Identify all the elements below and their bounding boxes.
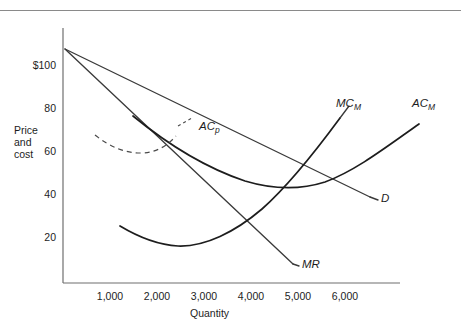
ac-p-label-main: AC (199, 120, 215, 132)
y-axis-title-line3: cost (14, 148, 33, 161)
economics-cost-curves-figure: $100 80 60 40 20 Price and cost 1,000 2,… (0, 0, 461, 331)
ac-p-leader-line (178, 118, 192, 126)
mc-m-curve-label: MCM (336, 97, 361, 112)
average-cost-competitive-curve (95, 135, 176, 153)
ac-p-curve-label: ACp (199, 120, 220, 135)
x-tick-label-2000: 2,000 (134, 290, 180, 302)
y-axis-title-line1: Price (14, 124, 38, 137)
y-axis-title-line2: and (14, 136, 32, 149)
mc-m-label-main: MC (336, 97, 354, 109)
x-tick-label-6000: 6,000 (322, 290, 368, 302)
x-tick-label-3000: 3,000 (181, 290, 227, 302)
ac-m-label-sub: M (428, 102, 435, 112)
x-tick-label-1000: 1,000 (87, 290, 133, 302)
marginal-cost-monopolist-curve (120, 118, 340, 246)
plot-area (0, 0, 461, 331)
d-curve-label: D (381, 192, 389, 204)
mr-curve-label: MR (302, 258, 320, 270)
x-axis-title: Quantity (190, 307, 229, 320)
ac-m-curve-label: ACM (412, 97, 435, 112)
mc-m-label-sub: M (354, 102, 361, 112)
ac-p-label-sub: p (215, 125, 220, 135)
ac-m-label-main: AC (412, 97, 428, 109)
x-tick-label-5000: 5,000 (275, 290, 321, 302)
y-tick-label-20: 20 (14, 231, 56, 243)
x-tick-label-4000: 4,000 (228, 290, 274, 302)
y-tick-label-80: 80 (14, 102, 56, 114)
y-tick-label-40: 40 (14, 188, 56, 200)
mr-leader-line (293, 264, 299, 266)
y-tick-label-100: $100 (14, 59, 56, 71)
marginal-revenue-curve (65, 49, 293, 264)
d-leader-line (370, 197, 378, 200)
